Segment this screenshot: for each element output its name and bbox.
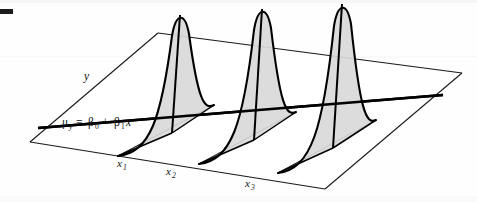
equation-beta0: β xyxy=(88,116,94,129)
equation-beta0-subscript: 0 xyxy=(95,122,99,131)
page-edge-mark xyxy=(0,9,13,14)
x-tick-1-subscript: 1 xyxy=(123,163,127,172)
x-tick-2-subscript: 2 xyxy=(172,171,176,180)
equation-beta1-subscript: 1 xyxy=(121,122,125,131)
regression-model-diagram: y μ y = β 0 + β 1 x x 1 x 2 x 3 xyxy=(0,0,477,202)
figure-root: y μ y = β 0 + β 1 x x 1 x 2 x 3 xyxy=(0,0,477,202)
equation-x: x xyxy=(125,116,132,128)
scanner-tone-band-bottom xyxy=(0,196,477,202)
y-axis-label: y xyxy=(83,70,90,83)
equation-beta1: β xyxy=(114,116,120,129)
equation-plus: + xyxy=(102,116,109,128)
x-tick-2-symbol: x xyxy=(165,165,171,177)
equation-equals: = xyxy=(76,116,83,128)
x-tick-1-symbol: x xyxy=(116,157,122,169)
x-tick-3-symbol: x xyxy=(244,177,250,189)
equation-mu-subscript: y xyxy=(68,122,73,131)
scanner-tone-band-top xyxy=(0,0,477,3)
equation-mu: μ xyxy=(62,116,68,129)
x-tick-3-subscript: 3 xyxy=(250,183,255,192)
